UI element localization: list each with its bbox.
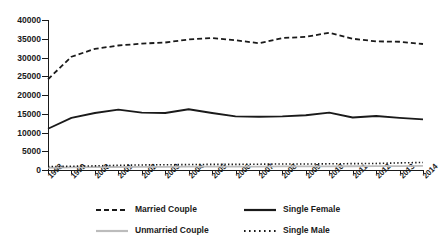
y-tick-label: 20000 <box>1 91 41 100</box>
legend-label: Married Couple <box>135 205 197 214</box>
legend-swatch-solid-gray-icon <box>96 226 128 236</box>
legend-swatch-solid-icon <box>244 205 276 215</box>
legend-row: Unmarried Couple Single Male <box>96 220 371 241</box>
series-lines <box>48 20 423 171</box>
y-tick-label: 25000 <box>1 72 41 81</box>
y-tick-label: 0 <box>1 166 41 175</box>
y-tick-label: 5000 <box>1 147 41 156</box>
y-tick-label: 30000 <box>1 54 41 63</box>
legend-item-married-couple: Married Couple <box>96 199 244 220</box>
legend-label: Single Female <box>283 205 340 214</box>
chart-legend: Married Couple Single Female Unmarried C… <box>96 199 371 241</box>
legend-label: Unmarried Couple <box>135 226 209 235</box>
legend-swatch-dotted-icon <box>244 226 276 236</box>
series-line <box>48 33 423 80</box>
y-tick-label: 15000 <box>1 110 41 119</box>
series-line <box>48 109 423 129</box>
legend-label: Single Male <box>283 226 330 235</box>
series-line <box>48 166 423 168</box>
legend-row: Married Couple Single Female <box>96 199 371 220</box>
y-tick-label: 35000 <box>1 35 41 44</box>
x-tick-label: 2014 <box>421 162 439 180</box>
y-tick-label: 40000 <box>1 16 41 25</box>
legend-swatch-dashed-icon <box>96 205 128 215</box>
legend-item-single-female: Single Female <box>244 199 371 220</box>
y-axis-labels: 0500010000150002000025000300003500040000 <box>0 0 41 244</box>
legend-item-unmarried-couple: Unmarried Couple <box>96 220 244 241</box>
y-tick-label: 10000 <box>1 129 41 138</box>
legend-item-single-male: Single Male <box>244 220 371 241</box>
